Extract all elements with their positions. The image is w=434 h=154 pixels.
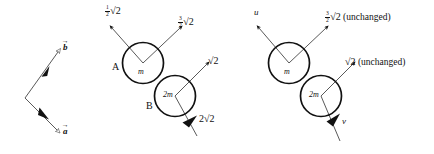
label-b-upper-right-velocity: √2: [208, 56, 219, 66]
after-collision-graphic: [259, 28, 353, 141]
mass-label-a-after: m: [284, 68, 290, 76]
note-unchanged-b-text: (unchanged): [358, 57, 405, 67]
before-collision-graphic: [112, 28, 207, 136]
mass-label-b: 2m: [163, 91, 173, 99]
label-b-lower-left-velocity: 2√2: [199, 114, 215, 124]
vector-a-accent: →: [62, 122, 69, 129]
label-a-after-left-velocity: u: [254, 8, 259, 17]
radical-root-two: √2: [110, 5, 121, 16]
note-unchanged-a-text: (unchanged): [343, 12, 390, 22]
radical-root-two: √2: [330, 11, 341, 22]
label-b-after-lower-right-velocity: v: [342, 117, 346, 126]
radical-root-two: √2: [345, 56, 356, 67]
body-tag-b: B: [146, 101, 153, 111]
vector-b-mid-head: [42, 66, 50, 77]
label-a-right-velocity: 3 2 √2: [178, 16, 194, 28]
mass-label-b-after: 2m: [309, 91, 319, 99]
vector-a-mid-head: [38, 108, 49, 120]
physics-collision-figure: →b →a 1 2 √2 3 2 √2 A m B 2m √2 2√2 u 3 …: [0, 0, 434, 154]
body-tag-a: A: [112, 62, 119, 72]
mass-label-a: m: [138, 68, 144, 76]
vector-b-accent: →: [62, 38, 69, 45]
vector-b-shaft: [25, 52, 58, 98]
vector-label-b: →b: [63, 43, 68, 52]
radical-root-two: √2: [183, 16, 194, 27]
label-a-left-velocity: 1 2 √2: [105, 5, 121, 17]
label-b-after-upper-right-velocity: √2 (unchanged): [345, 57, 405, 68]
vector-key-graphic: [25, 52, 58, 130]
label-a-after-right-velocity: 3 2 √2 (unchanged): [325, 11, 391, 23]
vector-label-a: →a: [63, 127, 68, 136]
arrow-b-lower-left-head: [183, 116, 198, 128]
